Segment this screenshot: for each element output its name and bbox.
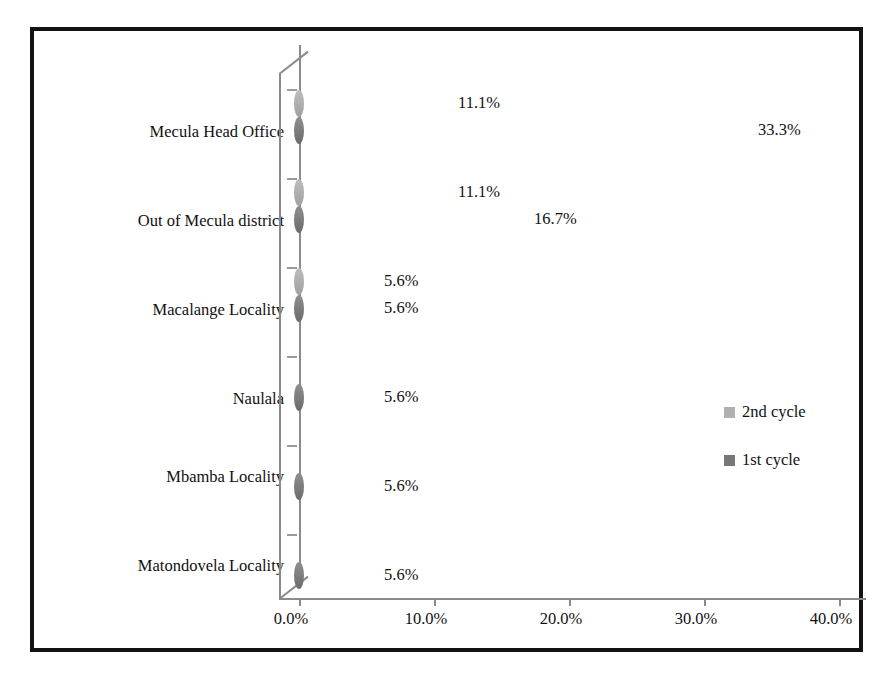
- value-tick-label-0: 0.0%: [246, 609, 336, 629]
- bar-1st-cycle-3: [299, 384, 375, 411]
- category-tick-1: [287, 178, 297, 180]
- axis-depth-back-wall: [279, 73, 281, 599]
- bar-value-1st-cycle-1: 16.7%: [534, 209, 577, 229]
- bar-2nd-cycle-0: [299, 90, 449, 117]
- bar-value-2nd-cycle-0: 11.1%: [458, 93, 500, 113]
- chart-legend: 2nd cycle 1st cycle: [724, 403, 874, 499]
- category-label-4: Mbamba Locality: [54, 469, 284, 486]
- category-tick-0: [287, 89, 297, 91]
- value-tick-label-1: 10.0%: [381, 609, 471, 629]
- category-tick-5: [287, 534, 297, 536]
- legend-swatch-icon-2nd-cycle: [724, 407, 735, 418]
- legend-item-2nd-cycle[interactable]: 2nd cycle: [724, 403, 874, 421]
- legend-swatch-icon-1st-cycle: [724, 455, 735, 466]
- bar-2nd-cycle-1: [299, 179, 449, 206]
- bar-1st-cycle-2: [299, 295, 375, 322]
- plot-area: Mecula Head Office Out of Mecula distric…: [34, 31, 867, 656]
- value-tick-4: [839, 598, 841, 606]
- legend-label-2nd-cycle: 2nd cycle: [742, 402, 806, 422]
- bar-2nd-cycle-2: [299, 268, 375, 295]
- bar-1st-cycle-0: [299, 117, 749, 144]
- bar-value-1st-cycle-3: 5.6%: [384, 387, 418, 407]
- bar-value-1st-cycle-0: 33.3%: [758, 120, 801, 140]
- bar-value-1st-cycle-5: 5.6%: [384, 565, 418, 585]
- value-tick-3: [704, 598, 706, 606]
- value-axis-line: [279, 598, 866, 600]
- legend-item-1st-cycle[interactable]: 1st cycle: [724, 451, 874, 469]
- value-tick-1: [434, 598, 436, 606]
- category-label-5: Matondovela Locality: [54, 558, 284, 575]
- category-label-0: Mecula Head Office: [54, 124, 284, 141]
- bar-value-2nd-cycle-1: 11.1%: [458, 182, 500, 202]
- category-label-1: Out of Mecula district: [54, 213, 284, 230]
- bar-1st-cycle-5: [299, 562, 375, 589]
- value-tick-2: [569, 598, 571, 606]
- category-axis-labels: Mecula Head Office Out of Mecula distric…: [52, 31, 284, 656]
- category-label-2: Macalange Locality: [54, 302, 284, 319]
- bar-value-1st-cycle-2: 5.6%: [384, 298, 418, 318]
- figure-border: Mecula Head Office Out of Mecula distric…: [30, 27, 863, 652]
- category-label-3: Naulala: [54, 391, 284, 408]
- value-tick-label-3: 30.0%: [651, 609, 741, 629]
- bar-1st-cycle-4: [299, 473, 375, 500]
- category-tick-4: [287, 445, 297, 447]
- value-tick-0: [299, 598, 301, 606]
- category-tick-2: [287, 267, 297, 269]
- bar-value-1st-cycle-4: 5.6%: [384, 476, 418, 496]
- category-tick-3: [287, 356, 297, 358]
- chart-figure: Mecula Head Office Out of Mecula distric…: [0, 0, 888, 678]
- bar-1st-cycle-1: [299, 206, 525, 233]
- bar-value-2nd-cycle-2: 5.6%: [384, 271, 418, 291]
- legend-label-1st-cycle: 1st cycle: [742, 450, 800, 470]
- value-tick-label-2: 20.0%: [516, 609, 606, 629]
- value-tick-label-4: 40.0%: [786, 609, 876, 629]
